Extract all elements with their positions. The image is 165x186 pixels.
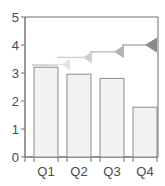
- chart-canvas: 0 1 2 3 4 5: [0, 0, 165, 186]
- bar-q1[interactable]: [34, 67, 58, 157]
- x-tick-label-q4: Q4: [136, 164, 153, 179]
- y-tick-label-2: 2: [12, 94, 19, 109]
- x-axis-ticks: [25, 157, 157, 162]
- y-tick-label-3: 3: [12, 66, 19, 81]
- x-tick-label-q1: Q1: [37, 164, 54, 179]
- bar-chart: 0 1 2 3 4 5: [0, 0, 165, 186]
- bar-q2[interactable]: [67, 74, 91, 157]
- x-tick-label-q2: Q2: [70, 164, 87, 179]
- y-axis-tick-labels: 0 1 2 3 4 5: [12, 10, 19, 165]
- y-tick-label-4: 4: [12, 38, 19, 53]
- bar-q3[interactable]: [100, 78, 124, 157]
- bar-q4[interactable]: [133, 107, 157, 157]
- y-tick-label-1: 1: [12, 122, 19, 137]
- x-axis-tick-labels: Q1 Q2 Q3 Q4: [37, 164, 153, 179]
- y-tick-label-0: 0: [12, 150, 19, 165]
- y-tick-label-5: 5: [12, 10, 19, 25]
- x-tick-label-q3: Q3: [103, 164, 120, 179]
